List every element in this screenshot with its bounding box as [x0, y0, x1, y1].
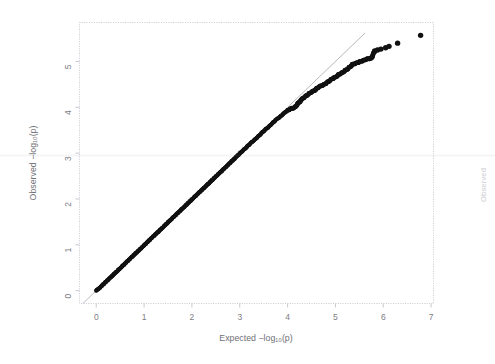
plot-frame [80, 23, 434, 304]
y-tick-label: 0 [64, 293, 74, 298]
data-points-layer [94, 33, 423, 293]
y-tick-label: 3 [64, 156, 74, 161]
y-axis-ticks: 012345 [64, 61, 80, 298]
x-axis-ticks: 01234567 [94, 304, 434, 322]
x-tick-label: 7 [429, 312, 434, 322]
data-point [386, 44, 391, 49]
x-tick-label: 2 [190, 312, 195, 322]
data-point [369, 56, 374, 61]
data-point [418, 33, 423, 38]
data-point [378, 46, 383, 51]
x-tick-label: 4 [285, 312, 290, 322]
y-tick-label: 1 [64, 248, 74, 253]
x-tick-label: 0 [94, 312, 99, 322]
x-tick-label: 5 [333, 312, 338, 322]
qq-plot-figure: 01234567 012345 Expected −log₁₀(p) Obser… [0, 0, 495, 364]
y-axis-title: Observed −log₁₀(p) [28, 126, 38, 201]
y-tick-label: 4 [64, 110, 74, 115]
clipped-neighbor-axis-label: Observed [479, 118, 493, 202]
x-tick-label: 1 [142, 312, 147, 322]
y-tick-label: 5 [64, 64, 74, 69]
qq-plot-canvas: 01234567 012345 Expected −log₁₀(p) Obser… [0, 0, 495, 364]
x-axis-title: Expected −log₁₀(p) [219, 333, 292, 343]
data-point [395, 40, 400, 45]
y-tick-label: 2 [64, 202, 74, 207]
x-tick-label: 3 [237, 312, 242, 322]
x-tick-label: 6 [381, 312, 386, 322]
